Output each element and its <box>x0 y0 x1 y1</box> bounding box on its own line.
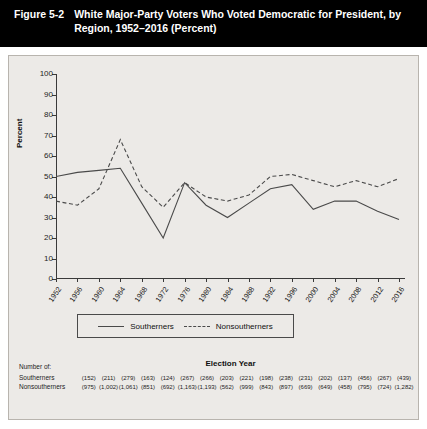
chart-panel: Percent 0102030405060708090100 195219561… <box>8 55 419 420</box>
table-cell: (152) <box>79 375 99 381</box>
row-values-nonsoutherners: (975)(1,002)(1,061)(851)(692)(1,163)(1,1… <box>79 384 414 390</box>
table-cell: (1,061) <box>118 384 138 390</box>
table-cell: (458) <box>335 384 355 390</box>
sample-size-caption: Number of: <box>19 363 414 370</box>
table-cell: (267) <box>178 375 198 381</box>
x-tick <box>185 279 186 282</box>
y-tick-label: 70 <box>0 132 53 140</box>
table-cell: (124) <box>158 375 178 381</box>
table-cell: (279) <box>118 375 138 381</box>
x-tick-label: 1976 <box>167 285 192 315</box>
table-cell: (999) <box>237 384 257 390</box>
table-cell: (163) <box>138 375 158 381</box>
x-tick-label: 1952 <box>39 285 64 315</box>
y-tick-label: 50 <box>0 173 53 181</box>
y-tick-label: 40 <box>0 193 53 201</box>
x-tick-label: 1968 <box>125 285 150 315</box>
table-cell: (266) <box>197 375 217 381</box>
table-cell: (724) <box>375 384 395 390</box>
series-line-southerners <box>56 168 399 238</box>
table-cell: (231) <box>296 375 316 381</box>
table-cell: (137) <box>335 375 355 381</box>
table-cell: (851) <box>138 384 158 390</box>
y-tick-label: 80 <box>0 111 53 119</box>
y-tick-label: 10 <box>0 255 53 263</box>
x-tick-label: 1956 <box>60 285 85 315</box>
x-tick-label: 1992 <box>253 285 278 315</box>
x-tick <box>77 279 78 282</box>
legend-swatch-solid-line-icon <box>98 326 124 327</box>
table-cell: (456) <box>355 375 375 381</box>
plot-area: 0102030405060708090100 19521956196019641… <box>56 74 405 279</box>
table-cell: (1,282) <box>394 384 414 390</box>
x-tick-label: 1996 <box>275 285 300 315</box>
table-cell: (1,193) <box>197 384 217 390</box>
table-cell: (221) <box>237 375 257 381</box>
table-cell: (439) <box>394 375 414 381</box>
x-tick <box>228 279 229 282</box>
x-tick <box>99 279 100 282</box>
figure-number: Figure 5-2 <box>14 7 74 21</box>
y-tick-label: 30 <box>0 214 53 222</box>
row-values-southerners: (152)(211)(279)(163)(124)(267)(266)(203)… <box>79 375 414 381</box>
table-cell: (669) <box>296 384 316 390</box>
legend-swatch-dashed-line-icon <box>184 326 210 327</box>
table-cell: (692) <box>158 384 178 390</box>
table-cell: (238) <box>276 375 296 381</box>
legend-item-southerners: Southerners <box>98 322 174 331</box>
table-cell: (843) <box>256 384 276 390</box>
legend-label-southerners: Southerners <box>130 322 174 331</box>
x-tick-label: 1984 <box>210 285 235 315</box>
figure-title: White Major-Party Voters Who Voted Democ… <box>74 7 413 35</box>
x-tick-label: 2004 <box>317 285 342 315</box>
legend-label-nonsoutherners: Nonsoutherners <box>216 322 273 331</box>
x-tick <box>163 279 164 282</box>
x-tick <box>56 279 57 282</box>
series-line-nonsoutherners <box>56 140 399 208</box>
x-tick-label: 2012 <box>360 285 385 315</box>
figure-header: Figure 5-2 White Major-Party Voters Who … <box>0 0 427 47</box>
x-tick <box>249 279 250 282</box>
table-cell: (211) <box>99 375 119 381</box>
table-cell: (562) <box>217 384 237 390</box>
y-tick-label: 0 <box>0 275 53 283</box>
table-cell: (202) <box>315 375 335 381</box>
table-cell: (198) <box>256 375 276 381</box>
table-cell: (795) <box>355 384 375 390</box>
table-cell: (649) <box>315 384 335 390</box>
y-tick-label: 60 <box>0 152 53 160</box>
table-row: Southerners (152)(211)(279)(163)(124)(26… <box>19 374 414 381</box>
y-tick-label: 20 <box>0 234 53 242</box>
chart-legend: Southerners Nonsoutherners <box>77 314 294 338</box>
table-cell: (203) <box>217 375 237 381</box>
sample-size-table: Number of: Southerners (152)(211)(279)(1… <box>19 363 414 390</box>
table-cell: (975) <box>79 384 99 390</box>
figure-container: Figure 5-2 White Major-Party Voters Who … <box>0 0 427 429</box>
x-tick <box>356 279 357 282</box>
legend-item-nonsoutherners: Nonsoutherners <box>184 322 273 331</box>
plot-box: 0102030405060708090100 19521956196019641… <box>56 74 405 279</box>
x-tick <box>270 279 271 282</box>
series-lines <box>56 74 405 279</box>
y-tick-label: 90 <box>0 91 53 99</box>
x-tick <box>120 279 121 282</box>
table-cell: (1,002) <box>99 384 119 390</box>
table-row: Nonsoutherners (975)(1,002)(1,061)(851)(… <box>19 383 414 390</box>
row-label-southerners: Southerners <box>19 374 79 381</box>
x-tick <box>142 279 143 282</box>
x-tick <box>292 279 293 282</box>
row-label-nonsoutherners: Nonsoutherners <box>19 383 79 390</box>
x-tick <box>378 279 379 282</box>
x-tick-label: 1960 <box>82 285 107 315</box>
x-tick <box>399 279 400 282</box>
table-cell: (897) <box>276 384 296 390</box>
table-cell: (267) <box>375 375 395 381</box>
y-tick-label: 100 <box>0 70 53 78</box>
x-tick <box>313 279 314 282</box>
x-tick <box>206 279 207 282</box>
table-cell: (1,163) <box>178 384 198 390</box>
x-tick <box>335 279 336 282</box>
